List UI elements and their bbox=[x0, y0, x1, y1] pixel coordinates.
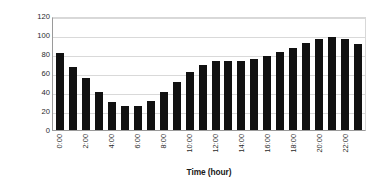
bar-slot bbox=[67, 18, 80, 130]
bar bbox=[212, 61, 220, 130]
x-tick-slot: 20:00 bbox=[313, 132, 326, 166]
x-tick-slot bbox=[222, 132, 235, 166]
x-tick-slot bbox=[170, 132, 183, 166]
bar-slot bbox=[106, 18, 119, 130]
bar bbox=[315, 39, 323, 130]
bar-slot bbox=[274, 18, 287, 130]
bar bbox=[56, 53, 64, 130]
bar-slot bbox=[235, 18, 248, 130]
x-tick-slot: 8:00 bbox=[157, 132, 170, 166]
x-tick-label: 4:00 bbox=[108, 134, 116, 148]
bar bbox=[186, 72, 194, 130]
bar bbox=[276, 52, 284, 130]
bar-slot bbox=[338, 18, 351, 130]
x-tick-slot bbox=[326, 132, 339, 166]
y-tick-label: 100 bbox=[28, 31, 50, 41]
x-tick-label: 10:00 bbox=[186, 134, 194, 153]
y-tick-label: 60 bbox=[28, 69, 50, 79]
bar-slot bbox=[351, 18, 364, 130]
bar bbox=[328, 37, 336, 130]
x-tick-slot: 14:00 bbox=[235, 132, 248, 166]
x-tick-slot: 2:00 bbox=[79, 132, 92, 166]
bar-slot bbox=[325, 18, 338, 130]
x-tick-label: 0:00 bbox=[56, 134, 64, 148]
bar bbox=[250, 59, 258, 130]
x-tick-label: 20:00 bbox=[316, 134, 324, 153]
x-tick-slot bbox=[300, 132, 313, 166]
bar bbox=[263, 56, 271, 130]
x-tick-slot bbox=[352, 132, 365, 166]
x-tick-slot bbox=[248, 132, 261, 166]
bar-slot bbox=[54, 18, 67, 130]
x-axis-title: Time (hour) bbox=[52, 167, 366, 177]
x-tick-label: 22:00 bbox=[342, 134, 350, 153]
bar bbox=[160, 92, 168, 130]
bar-slot bbox=[144, 18, 157, 130]
bar-slot bbox=[119, 18, 132, 130]
bar bbox=[354, 44, 362, 130]
x-tick-slot: 4:00 bbox=[105, 132, 118, 166]
bar bbox=[121, 106, 129, 130]
bar bbox=[224, 61, 232, 130]
x-tick-slot: 0:00 bbox=[53, 132, 66, 166]
bar-slot bbox=[170, 18, 183, 130]
bar bbox=[147, 101, 155, 130]
bar bbox=[302, 43, 310, 130]
bar-slot bbox=[80, 18, 93, 130]
bar-slot bbox=[93, 18, 106, 130]
x-tick-label: 12:00 bbox=[212, 134, 220, 153]
x-tick-slot: 22:00 bbox=[339, 132, 352, 166]
bar bbox=[69, 67, 77, 130]
y-axis-tick-labels: 120100806040200 bbox=[26, 0, 50, 184]
bar-slot bbox=[157, 18, 170, 130]
bar-slot bbox=[222, 18, 235, 130]
bar bbox=[108, 102, 116, 130]
x-tick-slot: 12:00 bbox=[209, 132, 222, 166]
x-tick-slot bbox=[66, 132, 79, 166]
plot-area bbox=[52, 17, 366, 131]
y-tick-label: 40 bbox=[28, 88, 50, 98]
bar bbox=[134, 106, 142, 130]
chart-screenshot: % of Busy Hour Load 120100806040200 0:00… bbox=[0, 0, 379, 184]
bar-slot bbox=[300, 18, 313, 130]
bar-slot bbox=[196, 18, 209, 130]
x-tick-label: 18:00 bbox=[290, 134, 298, 153]
bar-slot bbox=[287, 18, 300, 130]
y-tick-label: 0 bbox=[28, 126, 50, 136]
x-tick-slot bbox=[144, 132, 157, 166]
x-tick-slot bbox=[274, 132, 287, 166]
x-tick-slot: 18:00 bbox=[287, 132, 300, 166]
x-tick-label: 2:00 bbox=[82, 134, 90, 148]
y-tick-label: 20 bbox=[28, 107, 50, 117]
bar-slot bbox=[183, 18, 196, 130]
x-tick-slot: 6:00 bbox=[131, 132, 144, 166]
bar-slot bbox=[209, 18, 222, 130]
x-tick-label: 16:00 bbox=[264, 134, 272, 153]
x-tick-label: 14:00 bbox=[238, 134, 246, 153]
x-tick-label: 6:00 bbox=[134, 134, 142, 148]
x-tick-slot: 10:00 bbox=[183, 132, 196, 166]
bar-series bbox=[53, 18, 365, 130]
y-tick-label: 80 bbox=[28, 50, 50, 60]
x-tick-slot bbox=[92, 132, 105, 166]
bar-slot bbox=[132, 18, 145, 130]
x-tick-label: 8:00 bbox=[160, 134, 168, 148]
x-tick-slot: 16:00 bbox=[261, 132, 274, 166]
x-axis-tick-labels: 0:002:004:006:008:0010:0012:0014:0016:00… bbox=[52, 132, 366, 166]
bar-slot bbox=[312, 18, 325, 130]
x-tick-slot bbox=[196, 132, 209, 166]
bar bbox=[289, 48, 297, 130]
bar bbox=[95, 92, 103, 130]
bar bbox=[237, 61, 245, 130]
bar-slot bbox=[248, 18, 261, 130]
bar bbox=[82, 78, 90, 130]
bar-slot bbox=[261, 18, 274, 130]
bar bbox=[199, 65, 207, 130]
bar bbox=[173, 82, 181, 130]
bar bbox=[341, 39, 349, 130]
y-tick-label: 120 bbox=[28, 12, 50, 22]
x-tick-slot bbox=[118, 132, 131, 166]
